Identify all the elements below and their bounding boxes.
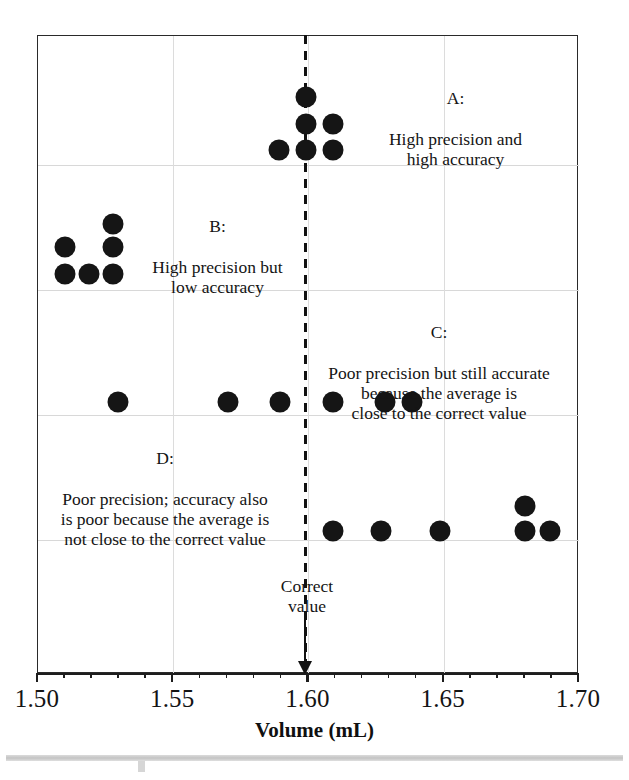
x-axis-tick-minor: [90, 673, 92, 678]
x-axis-tick-major: [36, 673, 38, 682]
correct-value-arrow-icon: [304, 618, 306, 662]
data-point-a: [269, 140, 290, 161]
x-axis-tick-minor: [63, 673, 65, 678]
data-point-a: [296, 87, 317, 108]
x-axis-tick-minor: [144, 673, 146, 678]
x-axis: 1.501.551.601.651.70: [37, 673, 578, 675]
annotation-d-key: D:: [25, 448, 305, 468]
data-point-c: [108, 392, 129, 413]
correct-value-caption: Correct value: [248, 576, 366, 617]
x-axis-tick-minor: [523, 673, 525, 678]
x-axis-tick-major: [442, 673, 444, 682]
annotation-d-text: Poor precision; accuracy also is poor be…: [61, 489, 269, 550]
data-point-b: [79, 264, 100, 285]
x-axis-tick-minor: [415, 673, 417, 678]
x-axis-title: Volume (mL): [0, 718, 629, 743]
x-axis-tick-minor: [117, 673, 119, 678]
annotation-b-text: High precision but low accuracy: [152, 257, 282, 297]
x-axis-tick-minor: [253, 673, 255, 678]
data-point-d: [323, 521, 344, 542]
x-axis-tick-label: 1.65: [420, 685, 465, 713]
precision-accuracy-figure: A: High precision and high accuracy B: H…: [0, 0, 629, 780]
annotation-a: A: High precision and high accuracy: [333, 68, 578, 169]
annotation-d: D: Poor precision; accuracy also is poor…: [25, 428, 305, 550]
x-axis-tick-minor: [226, 673, 228, 678]
x-axis-tick-minor: [280, 673, 282, 678]
data-point-b: [55, 264, 76, 285]
x-axis-tick-major: [306, 673, 308, 682]
annotation-a-key: A:: [333, 88, 578, 108]
data-point-c: [270, 392, 291, 413]
x-axis-tick-minor: [550, 673, 552, 678]
x-axis-tick-minor: [388, 673, 390, 678]
x-axis-tick-minor: [334, 673, 336, 678]
annotation-a-text: High precision and high accuracy: [389, 129, 522, 169]
x-axis-tick-minor: [199, 673, 201, 678]
x-axis-tick-minor: [496, 673, 498, 678]
x-axis-tick-minor: [361, 673, 363, 678]
x-axis-tick-major: [577, 673, 579, 682]
x-axis-tick-label: 1.55: [150, 685, 195, 713]
annotation-c-key: C:: [300, 322, 578, 342]
data-point-d: [430, 521, 451, 542]
annotation-c-text: Poor precision but still accurate becaus…: [328, 363, 550, 424]
data-point-d: [540, 521, 561, 542]
x-axis-tick-label: 1.70: [556, 685, 601, 713]
x-axis-tick-major: [171, 673, 173, 682]
gridline-vertical: [173, 36, 174, 674]
x-axis-tick-minor: [469, 673, 471, 678]
data-point-c: [218, 392, 239, 413]
data-point-b: [55, 237, 76, 258]
annotation-b-key: B:: [105, 216, 330, 236]
page-edge-artifact-stub: [138, 761, 145, 772]
data-point-a: [296, 140, 317, 161]
page-edge-artifact: [6, 755, 623, 761]
x-axis-tick-label: 1.50: [15, 685, 60, 713]
data-point-d: [515, 521, 536, 542]
annotation-b: B: High precision but low accuracy: [105, 196, 330, 297]
data-point-d: [371, 521, 392, 542]
data-point-a: [296, 114, 317, 135]
x-axis-tick-label: 1.60: [285, 685, 330, 713]
annotation-c: C: Poor precision but still accurate bec…: [300, 302, 578, 424]
data-point-d: [515, 496, 536, 517]
